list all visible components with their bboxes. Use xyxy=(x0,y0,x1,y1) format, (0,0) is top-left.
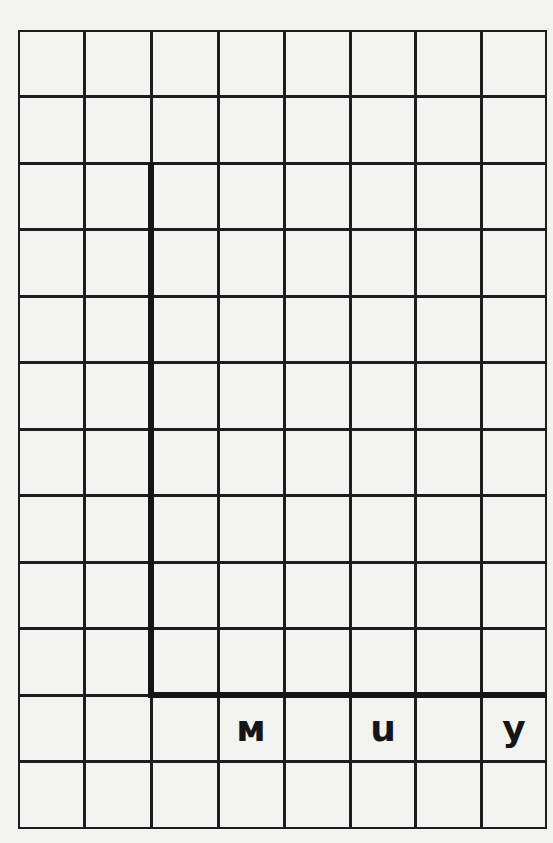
grid-row-line xyxy=(18,627,547,630)
grid-row-line xyxy=(18,494,547,497)
letter-cell: y xyxy=(481,697,547,761)
letter-cell: м xyxy=(218,697,284,761)
grid-row-line xyxy=(18,361,547,364)
grid-row-line xyxy=(18,561,547,564)
grid-row-line xyxy=(18,95,547,98)
grid-row-line xyxy=(18,428,547,431)
vertical-axis-line xyxy=(148,163,154,698)
grid-row-line xyxy=(18,162,547,165)
letter-cell: u xyxy=(350,697,416,761)
grid-row-line xyxy=(18,295,547,298)
grid-row-line xyxy=(18,228,547,231)
